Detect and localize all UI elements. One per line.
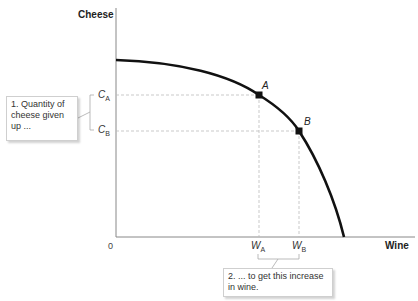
- origin-label: 0: [108, 241, 113, 251]
- point-a-label: A: [262, 80, 269, 91]
- cheese-bracket: [78, 95, 94, 130]
- point-b-marker: [296, 128, 303, 135]
- x-axis-title: Wine: [385, 240, 409, 251]
- ppf-diagram: [0, 0, 418, 301]
- callout-wine: 2. ... to get this increase in wine.: [223, 268, 333, 297]
- point-a-marker: [256, 92, 263, 99]
- tick-ca: CA: [98, 89, 110, 102]
- ppf-curve: [116, 60, 344, 237]
- callout-cheese: 1. Quantity of cheese given up ...: [6, 96, 78, 141]
- tick-wa: WA: [251, 240, 265, 253]
- point-b-label: B: [304, 116, 311, 127]
- tick-cb: CB: [98, 124, 110, 137]
- tick-wb: WB: [292, 240, 306, 253]
- wine-bracket: [258, 254, 299, 268]
- y-axis-title: Cheese: [78, 9, 114, 20]
